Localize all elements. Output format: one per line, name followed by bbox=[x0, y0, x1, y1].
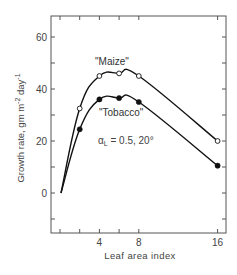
y-axis-label: Growth rate, gm m-2 day-1 bbox=[14, 73, 26, 182]
growth-rate-chart: 48160204060 "Maize" "Tobacco" αL = 0.5, … bbox=[0, 0, 237, 275]
x-axis-label: Leaf area index bbox=[104, 250, 176, 261]
y-tick-label: 20 bbox=[36, 136, 48, 147]
open-circle-marker bbox=[77, 106, 82, 111]
open-circle-marker bbox=[97, 74, 102, 79]
open-circle-marker bbox=[117, 71, 122, 76]
filled-circle-marker bbox=[117, 96, 122, 101]
series-label-maize: "Maize" bbox=[95, 56, 129, 67]
y-tick-label: 60 bbox=[36, 32, 48, 43]
maize-curve bbox=[61, 69, 218, 193]
plot-border bbox=[51, 16, 226, 233]
x-tick-label: 8 bbox=[136, 237, 142, 248]
plot-frame bbox=[51, 16, 226, 233]
y-tick-label: 0 bbox=[41, 188, 47, 199]
axis-ticks: 48160204060 bbox=[36, 16, 226, 248]
series-curves bbox=[61, 69, 218, 193]
filled-circle-marker bbox=[136, 99, 141, 104]
open-circle-marker bbox=[215, 139, 220, 144]
filled-circle-marker bbox=[215, 163, 220, 168]
y-tick-label: 40 bbox=[36, 84, 48, 95]
x-tick-label: 4 bbox=[97, 237, 103, 248]
series-label-tobacco: "Tobacco" bbox=[99, 107, 144, 118]
filled-circle-marker bbox=[77, 127, 82, 132]
series-markers bbox=[77, 71, 220, 168]
open-circle-marker bbox=[136, 74, 141, 79]
filled-circle-marker bbox=[97, 97, 102, 102]
annotation-alpha: αL = 0.5, 20° bbox=[98, 135, 154, 147]
x-tick-label: 16 bbox=[212, 237, 224, 248]
